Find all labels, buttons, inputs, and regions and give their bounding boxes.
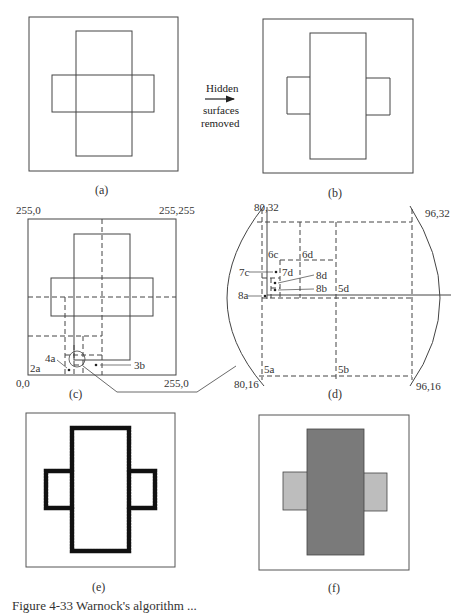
panel-f-label: (f) xyxy=(328,581,340,595)
panel-c-corner-bl: 0,0 xyxy=(16,377,30,389)
annot-5a: 5a xyxy=(264,363,275,375)
panel-e-label: (e) xyxy=(92,580,105,594)
annot-6d: 6d xyxy=(302,248,314,260)
panel-c-corner-tl: 255,0 xyxy=(16,204,41,216)
hidden-surface-arrow: Hidden surfaces removed xyxy=(201,82,240,129)
annot-6c: 6c xyxy=(268,248,279,260)
panel-d-corner-bl: 80,16 xyxy=(234,378,259,390)
annot-2a: 2a xyxy=(30,362,41,374)
arrow-label-bottom: removed xyxy=(201,117,240,129)
panel-c: 255,0 255,255 0,0 255,0 2a 4a 3b (c) xyxy=(16,204,236,401)
panel-d-corner-br: 96,16 xyxy=(416,380,441,392)
arrow-label-mid: surfaces xyxy=(203,104,239,116)
panel-d-corner-tl: 80,32 xyxy=(254,201,279,213)
panel-e xyxy=(26,413,175,567)
panel-d: 80,32 96,32 80,16 96,16 6c 6d 7c 7d 8d 8… xyxy=(227,201,451,401)
panel-d-label: (d) xyxy=(328,387,342,401)
panel-b xyxy=(263,19,413,173)
panel-d-corner-tr: 96,32 xyxy=(425,207,450,219)
annot-7c: 7c xyxy=(239,266,250,278)
arrow-label-top: Hidden xyxy=(206,82,239,94)
annot-4a: 4a xyxy=(45,352,56,364)
panel-a-label: (a) xyxy=(95,183,108,197)
annot-7d: 7d xyxy=(282,266,294,278)
annot-8d: 8d xyxy=(316,269,328,281)
annot-3b: 3b xyxy=(134,359,146,371)
panel-c-corner-tr: 255,255 xyxy=(159,204,195,216)
figure-caption: Figure 4-33 Warnock's algorithm ... xyxy=(12,598,197,614)
panel-c-corner-br: 255,0 xyxy=(164,377,189,389)
annot-8b: 8b xyxy=(316,282,328,294)
panel-a xyxy=(29,17,178,171)
panel-f xyxy=(259,415,409,570)
panel-c-label: (c) xyxy=(69,387,82,401)
panel-b-label: (b) xyxy=(328,186,342,200)
annot-8a: 8a xyxy=(238,289,249,301)
annot-5d: 5d xyxy=(338,282,350,294)
annot-5b: 5b xyxy=(338,363,350,375)
